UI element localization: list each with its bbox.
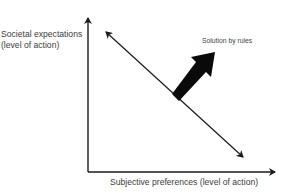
x-axis-label: Subjective preferences (level of action)	[110, 177, 258, 187]
diagram-canvas	[0, 0, 285, 194]
solution-arrow-icon	[172, 52, 215, 101]
solution-annotation: Solution by rules	[202, 37, 252, 44]
